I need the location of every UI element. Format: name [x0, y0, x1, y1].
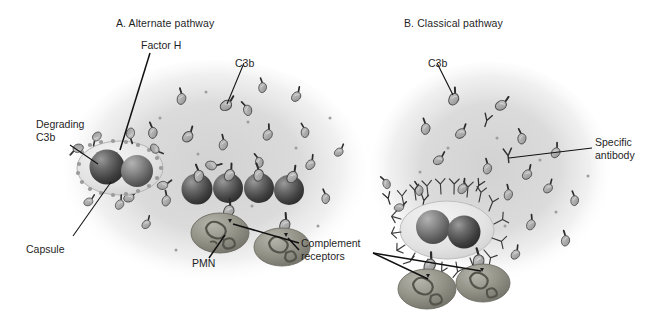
- panel-a-title: A. Alternate pathway: [116, 17, 214, 29]
- panel-b-title: B. Classical pathway: [404, 17, 503, 29]
- label-factor-h: Factor H: [141, 39, 181, 52]
- label-capsule: Capsule: [26, 243, 65, 256]
- coccus-sphere-icon: [448, 216, 481, 249]
- label-specific-antibody: Specific antibody: [595, 136, 635, 161]
- label-c3b-panel-a: C3b: [235, 57, 254, 70]
- coccus-sphere-icon: [416, 210, 450, 244]
- pmn-phagocyte-icon: [191, 213, 249, 253]
- coccus-sphere-icon: [121, 155, 153, 187]
- figure-canvas: [0, 0, 666, 312]
- complement-pathway-figure: A. Alternate pathway B. Classical pathwa…: [0, 0, 666, 312]
- classical-pathway-panel: [370, 62, 610, 309]
- label-c3b-panel-b: C3b: [428, 57, 447, 70]
- coccus-sphere-icon: [90, 150, 125, 185]
- label-pmn: PMN: [192, 257, 215, 270]
- label-complement-receptors: Complement receptors: [301, 237, 361, 262]
- label-degrading-c3b: Degrading C3b: [36, 118, 84, 143]
